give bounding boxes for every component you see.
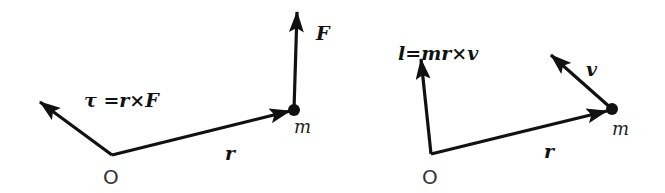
force-label: F: [315, 22, 331, 44]
position-vector-r-right: [431, 111, 607, 154]
position-vector-r-left: [112, 111, 290, 155]
mass-label-right: m: [612, 118, 629, 139]
position-label-right: r: [544, 140, 556, 162]
mass-point-left: [288, 104, 300, 116]
angular-momentum-vector-l: [421, 59, 431, 154]
origin-label-left: O: [103, 165, 119, 189]
position-label-left: r: [225, 142, 237, 164]
torque-label: τ =r×F: [84, 89, 160, 111]
vector-diagram: τ =r×F F m r O l=mr×v v m r O: [0, 0, 665, 193]
origin-label-right: O: [422, 165, 438, 189]
velocity-vector-v: [551, 55, 612, 109]
mass-point-right: [606, 103, 618, 115]
angular-momentum-diagram: l=mr×v v m r O: [398, 42, 629, 189]
velocity-label: v: [586, 58, 598, 80]
force-vector-F: [294, 12, 297, 110]
torque-diagram: τ =r×F F m r O: [40, 12, 331, 189]
mass-label-left: m: [294, 116, 311, 137]
angular-momentum-label: l=mr×v: [398, 42, 479, 64]
